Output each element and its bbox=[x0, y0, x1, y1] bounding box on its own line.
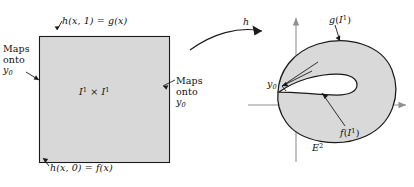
bottom-edge-result: f(x) bbox=[96, 162, 113, 173]
space-label: E2 bbox=[312, 143, 323, 154]
left-edge-label-basepoint: y0 bbox=[3, 65, 30, 77]
space-base: E bbox=[312, 142, 319, 153]
space-exponent: 2 bbox=[319, 142, 323, 150]
figure-graphics bbox=[0, 0, 414, 187]
top-edge-result: g(x) bbox=[108, 15, 127, 26]
left-basepoint-sub: 0 bbox=[8, 69, 12, 77]
top-edge-args: (x, 1) bbox=[68, 15, 93, 26]
region-exponent-2: 1 bbox=[105, 86, 109, 94]
h-map-arrow bbox=[190, 26, 262, 51]
right-edge-label-basepoint: y0 bbox=[176, 97, 203, 109]
left-edge-label: Maps onto y0 bbox=[3, 44, 30, 78]
right-edge-label: Maps onto y0 bbox=[176, 76, 203, 110]
bottom-edge-label: h(x, 0) = f(x) bbox=[50, 163, 113, 174]
top-edge-label: h(x, 1) = g(x) bbox=[62, 16, 127, 27]
f-image-label: f(I1) bbox=[340, 128, 359, 139]
g-image-label: g(I1) bbox=[329, 15, 351, 26]
map-arrow-label: h bbox=[243, 17, 249, 28]
basepoint-sub: 0 bbox=[272, 83, 276, 91]
bottom-edge-args: (x, 0) bbox=[56, 162, 81, 173]
region-operator: × bbox=[90, 86, 98, 97]
unit-square-inner-tint bbox=[41, 38, 168, 161]
f-image-close: ) bbox=[356, 127, 360, 138]
bottom-edge-equals: = bbox=[85, 162, 93, 173]
top-label-leader bbox=[55, 21, 62, 30]
g-image-close: ) bbox=[347, 14, 351, 25]
region-exponent-1: 1 bbox=[83, 86, 87, 94]
right-basepoint-sub: 0 bbox=[181, 101, 185, 109]
g-image-leader bbox=[335, 25, 340, 41]
basepoint-label: y0 bbox=[267, 79, 277, 91]
unit-square-group bbox=[40, 37, 170, 163]
top-edge-equals: = bbox=[97, 15, 105, 26]
homotopy-figure: h(x, 1) = g(x) h(x, 0) = f(x) I1 × I1 Ma… bbox=[0, 0, 414, 187]
square-region-label: I1 × I1 bbox=[79, 87, 110, 98]
image-blob-group bbox=[278, 41, 396, 143]
